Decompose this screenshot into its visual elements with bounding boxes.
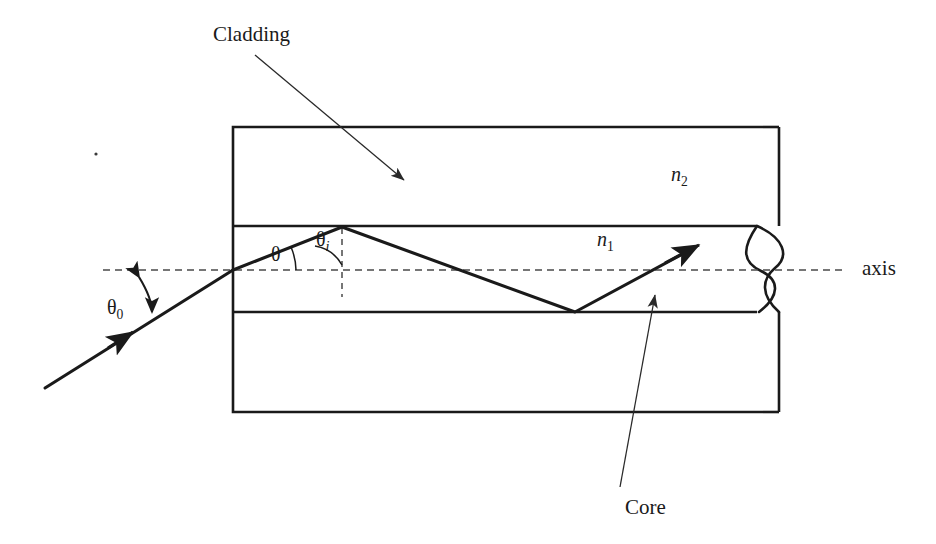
core-label: Core [625,495,666,520]
diagram-svg [0,0,936,544]
theta-label: θ [271,243,281,266]
stray-dot-artifact [94,152,97,155]
theta-i-label: θi [316,228,330,255]
n2-subscript: 2 [681,174,688,189]
refractive-index-n1-label: n1 [597,228,614,255]
axis-label: axis [862,256,896,281]
incident-ray [45,270,233,388]
cladding-leader-line [255,55,404,180]
theta-i-subscript: i [326,238,330,254]
theta-angle-arc [291,247,296,270]
fiber-diagram-canvas: Cladding Core axis n2 n1 θ θi θ0 [0,0,936,544]
refractive-index-n2-label: n2 [671,163,688,190]
theta-0-symbol: θ [107,296,117,318]
theta-0-subscript: 0 [117,307,124,322]
theta-i-symbol: θ [316,228,326,250]
theta-0-label: θ0 [107,296,123,323]
theta0-angle-arc [139,277,152,312]
n1-subscript: 1 [607,239,614,254]
n1-symbol: n [597,228,607,250]
cladding-label: Cladding [213,22,290,47]
n2-symbol: n [671,163,681,185]
core-leader-line [620,295,655,487]
